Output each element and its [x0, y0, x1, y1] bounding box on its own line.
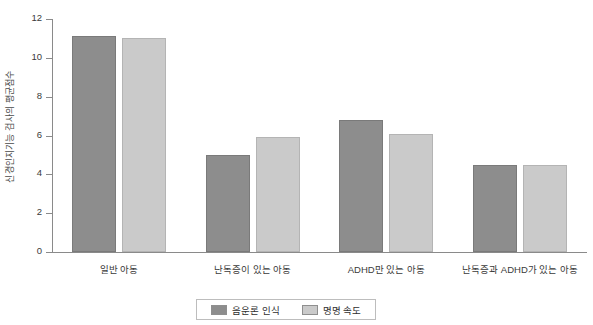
y-axis-tick-label: 12: [31, 12, 42, 23]
y-axis-tick: 2: [46, 213, 52, 214]
legend-item: 음운론 인식: [211, 303, 280, 317]
bar: [256, 137, 300, 252]
y-axis-line: [52, 19, 53, 252]
y-axis-tick: 0: [46, 252, 52, 253]
x-axis-category-label: 난독증과 ADHD가 있는 아동: [462, 262, 578, 276]
y-axis-tick-label: 6: [37, 129, 42, 140]
chart-legend: 음운론 인식 명명 속도: [196, 299, 376, 320]
bar: [339, 120, 383, 252]
x-axis-category-label: 일반 아동: [100, 262, 139, 276]
legend-item-label: 음운론 인식: [232, 303, 280, 317]
x-axis-category-label: 난독증이 있는 아동: [214, 262, 291, 276]
legend-swatch-icon: [211, 305, 227, 315]
y-axis-tick-label: 0: [37, 245, 42, 256]
y-axis-tick-label: 8: [37, 90, 42, 101]
x-axis-line: [52, 252, 587, 253]
bar-chart: 신경인지기능 검사의 평균점수 024681012 일반 아동난독증이 있는 아…: [0, 0, 593, 325]
bar: [523, 165, 567, 252]
y-axis-tick: 6: [46, 136, 52, 137]
legend-item-label: 명명 속도: [323, 303, 362, 317]
bar: [72, 36, 116, 252]
y-axis-tick: 4: [46, 174, 52, 175]
bar: [206, 155, 250, 252]
y-axis-title: 신경인지기능 검사의 평균점수: [0, 0, 18, 252]
y-axis-tick-label: 4: [37, 167, 42, 178]
y-axis-tick-label: 10: [31, 51, 42, 62]
legend-swatch-icon: [302, 305, 318, 315]
legend-item: 명명 속도: [302, 303, 362, 317]
plot-area: 024681012: [52, 19, 587, 252]
bar: [473, 165, 517, 252]
x-axis-category-label: ADHD만 있는 아동: [348, 262, 425, 276]
y-axis-title-label: 신경인지기능 검사의 평균점수: [3, 70, 16, 182]
bar: [122, 38, 166, 252]
y-axis-tick: 10: [46, 58, 52, 59]
y-axis-tick-label: 2: [37, 206, 42, 217]
y-axis-tick: 12: [46, 19, 52, 20]
bar: [389, 134, 433, 252]
y-axis-tick: 8: [46, 97, 52, 98]
